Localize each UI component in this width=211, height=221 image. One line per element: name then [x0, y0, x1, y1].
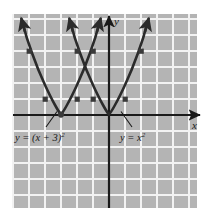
data-point-marker	[123, 97, 128, 102]
parabola-figure: y x y = (x + 3)2 y = x2	[0, 0, 211, 221]
x-axis-label-text: x	[191, 119, 197, 131]
right-curve-equation-exponent: 2	[142, 131, 146, 139]
left-curve-equation-label: y = (x + 3)2	[14, 131, 65, 144]
data-point-marker	[91, 49, 96, 54]
right-curve-equation-base: y = x	[119, 132, 142, 143]
left-curve-equation-base: y = (x + 3)	[14, 132, 62, 144]
plot-svg: y x y = (x + 3)2 y = x2	[0, 0, 211, 221]
data-point-marker	[75, 97, 80, 102]
data-point-marker	[27, 49, 32, 54]
y-axis-label: y	[113, 15, 119, 27]
data-point-marker	[75, 49, 80, 54]
x-axis-label: x	[191, 119, 197, 131]
vertex-marker-left	[58, 112, 64, 118]
data-point-marker	[91, 97, 96, 102]
data-point-marker	[139, 49, 144, 54]
y-axis-label-text: y	[113, 15, 119, 27]
data-point-marker	[43, 97, 48, 102]
left-curve-equation-exponent: 2	[61, 131, 65, 139]
